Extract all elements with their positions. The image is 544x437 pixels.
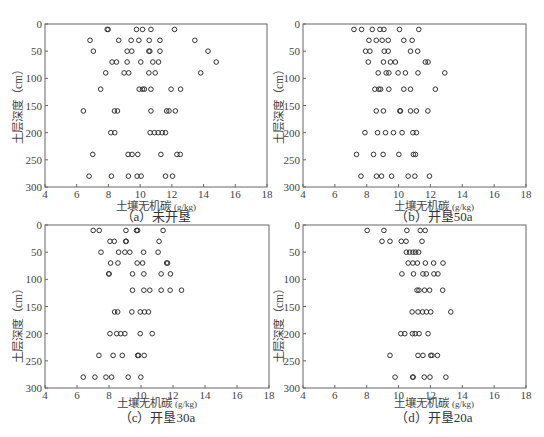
data-point-marker xyxy=(109,174,114,179)
data-point-marker xyxy=(410,38,415,43)
data-point-marker xyxy=(449,310,454,315)
data-point-marker xyxy=(90,152,95,157)
data-point-marker xyxy=(417,27,422,32)
data-point-marker xyxy=(442,71,447,76)
data-point-marker xyxy=(411,272,416,277)
data-point-marker xyxy=(87,174,92,179)
data-point-marker xyxy=(172,27,177,32)
data-point-marker xyxy=(388,353,393,358)
data-point-marker xyxy=(130,310,135,315)
data-point-marker xyxy=(391,130,396,135)
data-point-marker xyxy=(116,38,121,43)
y-tick-label: 250 xyxy=(26,154,43,166)
data-point-marker xyxy=(124,228,129,233)
data-point-marker xyxy=(388,60,393,65)
data-point-marker xyxy=(416,71,421,76)
data-point-marker xyxy=(393,60,398,65)
data-point-marker xyxy=(99,250,104,255)
data-point-marker xyxy=(423,261,428,266)
data-point-marker xyxy=(130,288,135,293)
data-point-marker xyxy=(141,250,146,255)
data-point-marker xyxy=(138,331,143,336)
y-tick-label: 50 xyxy=(31,45,43,57)
data-point-marker xyxy=(173,109,178,114)
data-point-marker xyxy=(399,239,404,244)
data-point-marker xyxy=(150,331,155,336)
x-tick-label: 18 xyxy=(521,389,533,401)
data-point-marker xyxy=(159,272,164,277)
y-tick-label: 0 xyxy=(295,18,301,30)
data-point-marker xyxy=(359,174,364,179)
data-point-marker xyxy=(381,60,386,65)
y-tick-label: 50 xyxy=(31,246,43,258)
data-point-marker xyxy=(158,49,163,54)
data-point-marker xyxy=(402,87,407,92)
data-point-marker xyxy=(402,38,407,43)
y-tick-label: 250 xyxy=(284,355,301,367)
data-point-marker xyxy=(140,27,145,32)
data-point-marker xyxy=(116,250,121,255)
y-tick-label: 150 xyxy=(26,100,43,112)
data-point-marker xyxy=(214,60,219,65)
data-point-marker xyxy=(422,375,427,380)
data-point-marker xyxy=(158,38,163,43)
data-point-marker xyxy=(423,228,428,233)
data-point-marker xyxy=(168,288,173,293)
data-point-marker xyxy=(393,375,398,380)
scatter-plot-a: 0501001502002503004681012141618 xyxy=(0,0,272,218)
data-point-marker xyxy=(414,109,419,114)
data-point-marker xyxy=(179,288,184,293)
data-point-marker xyxy=(148,288,153,293)
data-point-marker xyxy=(381,152,386,157)
data-point-marker xyxy=(408,109,413,114)
y-tick-label: 300 xyxy=(26,382,43,394)
data-point-marker xyxy=(383,130,388,135)
data-point-marker xyxy=(206,49,211,54)
y-tick-label: 250 xyxy=(26,355,43,367)
data-point-marker xyxy=(104,375,109,380)
data-point-marker xyxy=(142,353,147,358)
y-tick-label: 300 xyxy=(284,382,301,394)
plot-frame xyxy=(303,24,526,187)
y-tick-label: 200 xyxy=(26,127,43,139)
y-axis-label: 土层深度（cm） xyxy=(9,49,25,159)
data-point-marker xyxy=(81,109,86,114)
y-tick-label: 100 xyxy=(26,72,43,84)
x-tick-label: 4 xyxy=(42,188,48,200)
data-point-marker xyxy=(431,261,436,266)
data-point-marker xyxy=(376,71,381,76)
data-point-marker xyxy=(109,375,114,380)
panel-b: 0501001502002503004681012141618 土层深度（cm）… xyxy=(272,0,544,218)
data-point-marker xyxy=(126,375,131,380)
data-point-marker xyxy=(374,38,379,43)
data-point-marker xyxy=(135,261,140,266)
data-point-marker xyxy=(168,272,173,277)
data-point-marker xyxy=(404,239,409,244)
x-tick-label: 4 xyxy=(42,389,48,401)
data-point-marker xyxy=(159,288,164,293)
data-point-marker xyxy=(120,353,125,358)
data-point-marker xyxy=(163,174,168,179)
y-tick-label: 200 xyxy=(26,328,43,340)
panel-d: 0501001502002503004681012141618 土层深度（cm）… xyxy=(272,218,544,437)
x-tick-label: 6 xyxy=(74,389,80,401)
data-point-marker xyxy=(354,152,359,157)
data-point-marker xyxy=(157,239,162,244)
data-point-marker xyxy=(139,375,144,380)
x-tick-label: 8 xyxy=(364,188,370,200)
data-point-marker xyxy=(416,250,421,255)
x-tick-label: 8 xyxy=(364,389,370,401)
data-point-marker xyxy=(147,71,152,76)
data-point-marker xyxy=(415,261,420,266)
data-point-marker xyxy=(103,71,108,76)
data-point-marker xyxy=(411,261,416,266)
data-point-marker xyxy=(389,174,394,179)
data-point-marker xyxy=(140,261,145,266)
data-point-marker xyxy=(88,38,93,43)
y-axis-label: 土层深度（cm） xyxy=(270,49,286,159)
y-tick-label: 200 xyxy=(284,127,301,139)
data-point-marker xyxy=(138,60,143,65)
data-point-marker xyxy=(110,60,115,65)
y-tick-label: 50 xyxy=(289,246,301,258)
data-point-marker xyxy=(400,130,405,135)
